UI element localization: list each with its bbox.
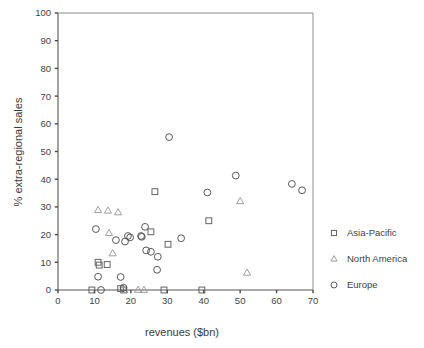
data-point xyxy=(232,172,239,179)
data-point xyxy=(206,218,212,224)
legend-marker-triangle xyxy=(331,256,337,261)
y-tick-label: 50 xyxy=(40,146,51,157)
x-tick-label: 60 xyxy=(271,295,282,306)
axis-lines xyxy=(58,13,313,290)
data-point xyxy=(127,234,134,241)
scatter-chart-figure: 0102030405060708090100010203040506070 As… xyxy=(0,0,424,348)
data-point xyxy=(104,207,111,213)
data-point xyxy=(95,206,102,212)
data-point xyxy=(147,248,154,255)
series-europe xyxy=(92,134,305,294)
y-tick-label: 60 xyxy=(40,118,51,129)
x-tick-label: 50 xyxy=(235,295,246,306)
x-tick-label: 70 xyxy=(308,295,319,306)
y-tick-label: 100 xyxy=(35,7,51,18)
x-tick-label: 40 xyxy=(198,295,209,306)
legend-marker-square xyxy=(331,230,336,235)
y-tick-label: 90 xyxy=(40,35,51,46)
data-point xyxy=(117,274,124,281)
axis-tick-labels: 0102030405060708090100010203040506070 xyxy=(35,7,318,306)
plot-canvas: 0102030405060708090100010203040506070 As… xyxy=(0,0,424,348)
legend-label: North America xyxy=(347,253,408,264)
x-tick-label: 10 xyxy=(89,295,100,306)
y-tick-label: 70 xyxy=(40,91,51,102)
data-point xyxy=(243,269,250,275)
data-point xyxy=(237,198,244,204)
data-point xyxy=(166,134,173,141)
x-tick-label: 20 xyxy=(126,295,137,306)
y-tick-label: 80 xyxy=(40,63,51,74)
data-point xyxy=(165,241,171,247)
y-tick-label: 20 xyxy=(40,229,51,240)
x-tick-label: 30 xyxy=(162,295,173,306)
data-point xyxy=(154,253,161,260)
legend-label: Asia-Pacific xyxy=(347,227,397,238)
data-point xyxy=(299,187,306,194)
y-tick-label: 40 xyxy=(40,174,51,185)
plot-frame xyxy=(58,13,313,290)
y-tick-label: 30 xyxy=(40,201,51,212)
legend-marker-circle xyxy=(331,282,337,288)
y-tick-label: 0 xyxy=(46,284,51,295)
data-point xyxy=(148,229,154,235)
data-point xyxy=(92,226,99,233)
data-point xyxy=(152,189,158,195)
plot-border xyxy=(58,13,313,290)
data-point xyxy=(178,235,185,242)
data-point xyxy=(143,247,150,254)
axis-ticks xyxy=(55,13,313,293)
x-tick-label: 0 xyxy=(55,295,60,306)
y-tick-label: 10 xyxy=(40,257,51,268)
chart-legend: Asia-PacificNorth AmericaEurope xyxy=(331,227,408,290)
data-point xyxy=(204,189,211,196)
data-point xyxy=(154,266,161,273)
data-point xyxy=(142,223,149,230)
legend-label: Europe xyxy=(347,279,378,290)
data-point xyxy=(95,273,102,280)
data-point xyxy=(288,181,295,188)
data-point xyxy=(104,262,110,268)
data-point xyxy=(109,250,116,256)
data-point xyxy=(115,209,122,215)
data-point xyxy=(113,237,120,244)
data-point xyxy=(140,286,147,292)
data-markers xyxy=(89,134,306,294)
y-axis-title: % extra-regional sales xyxy=(12,97,24,206)
series-asia-pacific xyxy=(89,189,212,293)
x-axis-title: revenues ($bn) xyxy=(145,326,219,338)
data-point xyxy=(105,229,112,235)
